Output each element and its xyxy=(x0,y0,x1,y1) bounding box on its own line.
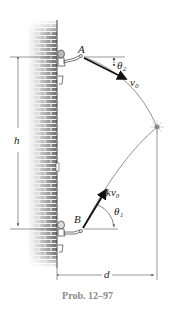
theta-2-angle-mark xyxy=(113,58,115,66)
point-a-label: A xyxy=(78,44,85,55)
v0-label: v₀ xyxy=(130,77,139,88)
height-label: h xyxy=(14,135,20,146)
velocity-arrow-b xyxy=(83,190,106,228)
kv0-label: kv₀ xyxy=(106,187,120,198)
point-b-label: B xyxy=(74,214,81,225)
diagram-canvas xyxy=(0,0,175,315)
person-b-figure xyxy=(58,221,83,252)
person-a-figure xyxy=(58,50,83,84)
distance-label: d xyxy=(104,269,110,280)
wall-bracket xyxy=(56,163,59,171)
figure: A θ₂ v₀ h kv₀ θ₁ B d Prob. 12–97 xyxy=(0,0,175,315)
theta-1-label: θ₁ xyxy=(114,206,123,217)
figure-caption: Prob. 12–97 xyxy=(0,290,175,301)
theta-1-angle-arc xyxy=(98,205,114,227)
theta-2-label: θ₂ xyxy=(117,60,126,71)
